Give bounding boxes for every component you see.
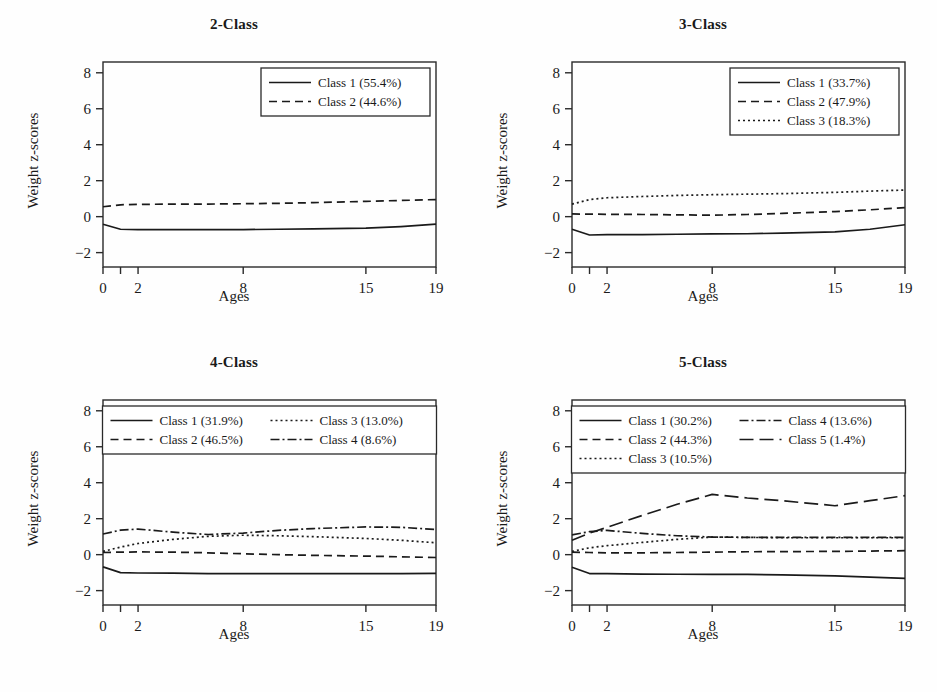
x-tick-label: 15 (358, 618, 373, 634)
series-line (103, 535, 436, 551)
series-line (103, 200, 436, 207)
y-tick-label: −2 (75, 583, 91, 599)
plot-area: −2024680281519Class 1 (31.9%)Class 2 (46… (0, 338, 468, 684)
y-tick-label: 8 (84, 403, 92, 419)
series-line (572, 551, 905, 553)
figure-root: 2-Class Weight z-scores Ages −2024680281… (0, 0, 937, 692)
x-tick-label: 19 (429, 618, 444, 634)
x-tick-label: 8 (239, 280, 247, 296)
y-tick-label: 6 (84, 439, 92, 455)
x-tick-label: 8 (708, 618, 716, 634)
y-tick-label: 8 (553, 65, 561, 81)
series-line (572, 530, 905, 537)
x-tick-label: 2 (603, 618, 611, 634)
x-tick-label: 8 (708, 280, 716, 296)
series-line (103, 527, 436, 535)
legend-label: Class 2 (44.6%) (318, 94, 401, 109)
series-line (572, 190, 905, 204)
legend-label: Class 4 (8.6%) (320, 432, 397, 447)
y-tick-label: 2 (553, 173, 561, 189)
y-tick-label: 0 (553, 209, 561, 225)
y-tick-label: 2 (84, 511, 92, 527)
legend-label: Class 3 (13.0%) (320, 413, 403, 428)
y-tick-label: 4 (553, 137, 561, 153)
x-tick-label: 0 (99, 280, 107, 296)
series-line (103, 567, 436, 574)
chart-panel-4-class: 4-Class Weight z-scores Ages −2024680281… (0, 338, 468, 684)
chart-panel-3-class: 3-Class Weight z-scores Ages −2024680281… (469, 0, 937, 346)
legend-label: Class 1 (30.2%) (629, 413, 712, 428)
legend-label: Class 3 (18.3%) (787, 113, 870, 128)
series-line (572, 494, 905, 540)
y-tick-label: 0 (84, 209, 92, 225)
y-tick-label: 0 (84, 547, 92, 563)
y-tick-label: 2 (84, 173, 92, 189)
x-tick-label: 0 (568, 618, 576, 634)
x-tick-label: 15 (827, 618, 842, 634)
y-tick-label: 2 (553, 511, 561, 527)
plot-area: −2024680281519Class 1 (55.4%)Class 2 (44… (0, 0, 468, 346)
y-tick-label: 0 (553, 547, 561, 563)
legend-label: Class 5 (1.4%) (789, 432, 866, 447)
x-tick-label: 2 (603, 280, 611, 296)
y-tick-label: 6 (553, 439, 561, 455)
x-tick-label: 19 (898, 280, 913, 296)
legend-label: Class 2 (44.3%) (629, 432, 712, 447)
y-tick-label: −2 (75, 245, 91, 261)
series-line (572, 537, 905, 551)
y-tick-label: 4 (84, 137, 92, 153)
x-tick-label: 2 (134, 280, 142, 296)
x-tick-label: 8 (239, 618, 247, 634)
y-tick-label: −2 (544, 245, 560, 261)
legend-label: Class 2 (47.9%) (787, 94, 870, 109)
x-tick-label: 0 (99, 618, 107, 634)
y-tick-label: 6 (84, 101, 92, 117)
chart-panel-5-class: 5-Class Weight z-scores Ages −2024680281… (469, 338, 937, 684)
y-tick-label: 8 (84, 65, 92, 81)
legend-label: Class 1 (31.9%) (160, 413, 243, 428)
series-line (103, 224, 436, 229)
legend-label: Class 3 (10.5%) (629, 451, 712, 466)
legend-label: Class 1 (33.7%) (787, 75, 870, 90)
legend-label: Class 2 (46.5%) (160, 432, 243, 447)
plot-area: −2024680281519Class 1 (30.2%)Class 2 (44… (469, 338, 937, 684)
plot-area: −2024680281519Class 1 (33.7%)Class 2 (47… (469, 0, 937, 346)
legend-label: Class 4 (13.6%) (789, 413, 872, 428)
x-tick-label: 15 (358, 280, 373, 296)
y-tick-label: 4 (84, 475, 92, 491)
x-tick-label: 19 (429, 280, 444, 296)
x-tick-label: 2 (134, 618, 142, 634)
x-tick-label: 0 (568, 280, 576, 296)
series-line (572, 208, 905, 216)
series-line (572, 225, 905, 235)
y-tick-label: 8 (553, 403, 561, 419)
y-tick-label: −2 (544, 583, 560, 599)
series-line (572, 567, 905, 578)
chart-panel-2-class: 2-Class Weight z-scores Ages −2024680281… (0, 0, 468, 346)
x-tick-label: 15 (827, 280, 842, 296)
y-tick-label: 4 (553, 475, 561, 491)
x-tick-label: 19 (898, 618, 913, 634)
series-line (103, 552, 436, 558)
y-tick-label: 6 (553, 101, 561, 117)
legend-label: Class 1 (55.4%) (318, 75, 401, 90)
